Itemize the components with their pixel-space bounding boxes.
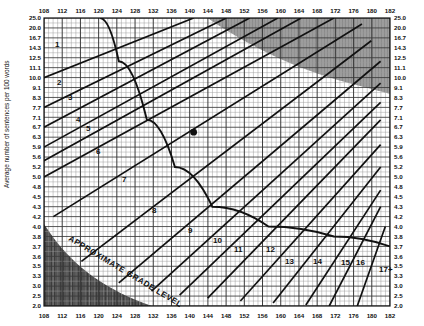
y-tick-left-4.5: 4.5 <box>32 193 41 200</box>
y-tick-right-3.0: 3.0 <box>394 282 403 289</box>
x-tick-top-108: 108 <box>39 7 50 14</box>
x-tick-top-160: 160 <box>276 7 287 14</box>
y-tick-right-2.0: 2.0 <box>394 302 403 309</box>
y-tick-right-7.1: 7.1 <box>394 114 403 121</box>
y-tick-left-3.7: 3.7 <box>32 243 41 250</box>
y-tick-right-3.3: 3.3 <box>394 272 403 279</box>
x-tick-top-182: 182 <box>385 7 396 14</box>
y-tick-left-3.8: 3.8 <box>32 233 41 240</box>
y-tick-right-25.0: 25.0 <box>394 14 407 21</box>
grade-label-8: 8 <box>152 206 157 215</box>
y-tick-right-6.3: 6.3 <box>394 133 403 140</box>
y-tick-left-5.2: 5.2 <box>32 163 41 170</box>
y-tick-left-12.5: 12.5 <box>29 54 42 61</box>
y-tick-left-16.7: 16.7 <box>29 34 42 41</box>
x-tick-top-144: 144 <box>203 7 214 14</box>
x-tick-bottom-182: 182 <box>385 312 396 319</box>
y-tick-right-4.8: 4.8 <box>394 183 403 190</box>
grade-label-17plus: 17+ <box>379 265 393 274</box>
x-tick-top-180: 180 <box>367 7 378 14</box>
grade-label-4: 4 <box>76 115 81 124</box>
y-tick-right-5.9: 5.9 <box>394 143 403 150</box>
y-tick-left-3.5: 3.5 <box>32 262 41 269</box>
x-tick-bottom-148: 148 <box>221 312 232 319</box>
grade-label-10: 10 <box>213 236 222 245</box>
x-tick-bottom-152: 152 <box>239 312 250 319</box>
x-tick-top-112: 112 <box>57 7 68 14</box>
y-tick-right-16.7: 16.7 <box>394 34 407 41</box>
y-tick-left-5.0: 5.0 <box>32 173 41 180</box>
y-tick-left-5.9: 5.9 <box>32 143 41 150</box>
x-tick-bottom-120: 120 <box>93 312 104 319</box>
y-tick-left-6.3: 6.3 <box>32 133 41 140</box>
y-tick-right-5.0: 5.0 <box>394 173 403 180</box>
y-tick-left-11.1: 11.1 <box>29 64 41 71</box>
y-tick-right-4.0: 4.0 <box>394 223 403 230</box>
y-tick-left-8.3: 8.3 <box>32 94 41 101</box>
y-tick-left-9.1: 9.1 <box>32 84 41 91</box>
x-tick-bottom-124: 124 <box>112 312 123 319</box>
y-tick-right-20.0: 20.0 <box>394 24 407 31</box>
plot-points <box>190 129 197 136</box>
grade-label-9: 9 <box>188 226 193 235</box>
y-tick-right-9.1: 9.1 <box>394 84 403 91</box>
x-tick-bottom-156: 156 <box>257 312 268 319</box>
x-tick-top-132: 132 <box>148 7 159 14</box>
y-tick-left-2.5: 2.5 <box>32 292 41 299</box>
y-tick-right-6.7: 6.7 <box>394 123 403 130</box>
y-tick-left-7.1: 7.1 <box>32 114 41 121</box>
y-tick-left-20.0: 20.0 <box>29 24 42 31</box>
grade-label-7: 7 <box>122 175 127 184</box>
grade-label-14: 14 <box>313 257 322 266</box>
x-tick-bottom-112: 112 <box>57 312 68 319</box>
x-tick-top-152: 152 <box>239 7 250 14</box>
y-tick-left-5.6: 5.6 <box>32 153 41 160</box>
y-tick-right-3.8: 3.8 <box>394 233 403 240</box>
y-tick-left-3.6: 3.6 <box>32 253 41 260</box>
y-tick-left-4.2: 4.2 <box>32 213 41 220</box>
y-tick-left-4.3: 4.3 <box>32 203 41 210</box>
grade-label-15: 15 <box>341 258 350 267</box>
x-tick-bottom-164: 164 <box>294 312 305 319</box>
x-tick-top-176: 176 <box>348 7 359 14</box>
y-tick-right-10.0: 10.0 <box>394 74 407 81</box>
grade-label-11: 11 <box>234 245 243 254</box>
x-tick-bottom-132: 132 <box>148 312 159 319</box>
x-tick-bottom-176: 176 <box>348 312 359 319</box>
x-tick-top-168: 168 <box>312 7 323 14</box>
x-tick-top-164: 164 <box>294 7 305 14</box>
x-tick-top-148: 148 <box>221 7 232 14</box>
y-tick-right-5.6: 5.6 <box>394 153 403 160</box>
grade-label-13: 13 <box>285 257 294 266</box>
x-tick-bottom-128: 128 <box>130 312 141 319</box>
x-tick-top-128: 128 <box>130 7 141 14</box>
y-tick-left-3.3: 3.3 <box>32 272 41 279</box>
y-tick-right-3.7: 3.7 <box>394 243 403 250</box>
x-tick-bottom-116: 116 <box>75 312 86 319</box>
x-tick-top-116: 116 <box>75 7 86 14</box>
x-tick-top-136: 136 <box>166 7 177 14</box>
y-tick-left-4.0: 4.0 <box>32 223 41 230</box>
x-tick-top-124: 124 <box>112 7 123 14</box>
grade-label-2: 2 <box>57 78 62 87</box>
x-tick-top-156: 156 <box>257 7 268 14</box>
x-tick-bottom-136: 136 <box>166 312 177 319</box>
y-tick-left-6.7: 6.7 <box>32 123 41 130</box>
y-tick-left-14.3: 14.3 <box>29 44 42 51</box>
y-tick-right-12.5: 12.5 <box>394 54 407 61</box>
grade-label-16: 16 <box>356 258 365 267</box>
grade-label-1: 1 <box>55 40 60 49</box>
y-tick-left-25.0: 25.0 <box>29 14 42 21</box>
x-tick-top-172: 172 <box>330 7 341 14</box>
x-tick-bottom-140: 140 <box>185 312 196 319</box>
x-tick-bottom-168: 168 <box>312 312 323 319</box>
y-tick-right-11.1: 11.1 <box>394 64 406 71</box>
x-tick-bottom-160: 160 <box>276 312 287 319</box>
y-tick-left-2.0: 2.0 <box>32 302 41 309</box>
y-tick-right-4.5: 4.5 <box>394 193 403 200</box>
chart-svg: 1081121161201241281321361401441481521561… <box>0 0 424 326</box>
y-tick-left-4.8: 4.8 <box>32 183 41 190</box>
y-tick-right-4.2: 4.2 <box>394 213 403 220</box>
grade-label-3: 3 <box>68 93 73 102</box>
y-axis-title: Average number of sentences per 100 word… <box>3 61 11 188</box>
